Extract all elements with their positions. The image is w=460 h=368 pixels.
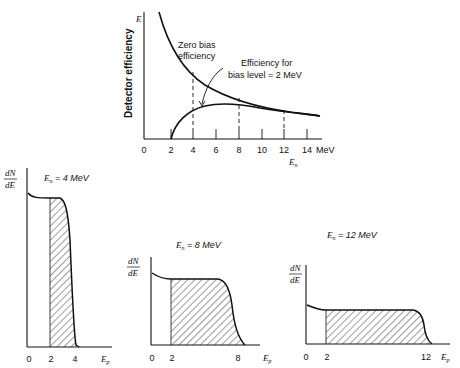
x-axis-symbol: Ep [100,354,110,365]
x-tick-labels: 0 2 4 6 8 10 12 14 MeV [141,145,334,155]
x-axis-symbol: Ep [262,353,272,364]
bias2-label-l2: bias level = 2 MeV [228,70,302,80]
svg-text:14: 14 [302,145,312,155]
svg-text:0: 0 [141,145,146,155]
svg-text:0: 0 [149,353,154,363]
zero-bias-label-l1: Zero bias [178,40,216,50]
zero-bias-label-l2: efficiency [178,51,216,61]
shaded-region [171,279,245,345]
svg-text:10: 10 [257,145,267,155]
svg-text:0: 0 [303,352,308,362]
svg-text:8: 8 [236,145,241,155]
svg-text:4: 4 [190,145,195,155]
x-ticks [171,129,307,139]
svg-text:2: 2 [48,354,53,364]
efficiency-chart: Detector efficiency E Zero bias [123,12,335,168]
dn-label: dN [128,256,140,266]
svg-text:12: 12 [421,352,431,362]
x-axis-symbol: Ep [440,352,450,363]
de-label: dE [128,268,139,278]
zero-bias-curve [159,12,320,116]
svg-text:6: 6 [213,145,218,155]
svg-text:4: 4 [72,354,77,364]
panel-title: En = 4 MeV [43,173,90,184]
bias2-label-l1: Efficiency for [241,58,292,68]
svg-text:8: 8 [235,353,240,363]
svg-text:12: 12 [279,145,289,155]
y-axis-symbol: E [135,14,142,24]
de-label: dE [5,180,16,190]
y-axis-label: Detector efficiency [123,28,134,118]
panel-title: En = 8 MeV [175,240,222,251]
x-axis-symbol: En [288,157,298,168]
x-unit: MeV [316,145,335,155]
spectrum-panel-8mev: dN dE En = 8 MeV 0 2 8 Ep [127,240,272,364]
de-label: dE [290,275,301,285]
svg-text:2: 2 [168,145,173,155]
svg-text:2: 2 [169,353,174,363]
panel-title: En = 12 MeV [326,230,378,241]
spectrum-panel-4mev: dN dE En = 4 MeV 0 2 4 Ep [4,168,112,365]
spectrum-panel-12mev: dN dE En = 12 MeV 0 2 12 Ep [289,230,450,363]
svg-text:2: 2 [324,352,329,362]
shaded-region [326,310,432,344]
dn-label: dN [5,168,17,178]
dn-label: dN [290,263,302,273]
figure: Detector efficiency E Zero bias [0,0,460,368]
svg-text:0: 0 [26,354,31,364]
